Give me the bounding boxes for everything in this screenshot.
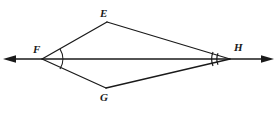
vertex-label-H: H xyxy=(234,42,243,53)
vertex-label-E: E xyxy=(100,8,107,19)
vertex-label-G: G xyxy=(100,92,108,103)
segment-EH xyxy=(107,22,230,59)
segment-GH xyxy=(106,59,230,88)
figure-canvas xyxy=(0,0,277,113)
arrowhead-left-icon xyxy=(3,55,16,63)
arrowhead-right-icon xyxy=(261,55,274,63)
segment-FE xyxy=(42,22,107,59)
vertex-label-F: F xyxy=(33,44,40,55)
line-FH xyxy=(3,55,274,63)
geometry-figure: E F G H xyxy=(0,0,277,113)
segment-FG xyxy=(42,59,106,88)
